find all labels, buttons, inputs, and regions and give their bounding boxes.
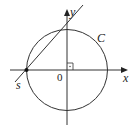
x-axis-label: x <box>122 71 129 85</box>
circle-label: C <box>97 31 106 45</box>
origin-label: 0 <box>57 71 63 83</box>
line-label: s <box>16 78 21 92</box>
diagram-canvas: y x 0 C s <box>0 0 137 130</box>
right-angle-dot-icon <box>69 66 70 67</box>
y-axis-label: y <box>69 5 76 19</box>
diagram-svg: y x 0 C s <box>0 0 137 130</box>
intersection-point <box>25 68 29 72</box>
